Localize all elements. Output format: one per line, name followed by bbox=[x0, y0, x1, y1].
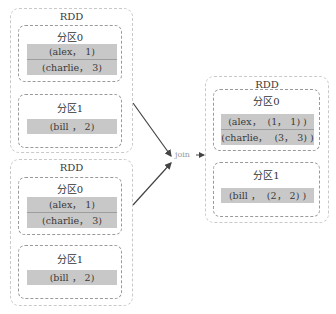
input-rdd-2: RDD 分区0 (alex， 1) (charlie， 3) 分区1 (bill… bbox=[10, 159, 133, 306]
partition-rows: (alex， (1， 1) ) (charlie， (3， 3) ) bbox=[221, 114, 314, 145]
record-row: (alex， 1) bbox=[27, 197, 117, 212]
join-operation-label: join bbox=[175, 150, 190, 159]
partition-label: 分区1 bbox=[19, 251, 121, 266]
record-row: (bill ， 2) bbox=[27, 119, 117, 134]
record-row: (bill ， 2) bbox=[27, 270, 117, 285]
record-row: (bill ， (2， 2) ) bbox=[221, 188, 314, 203]
record-row: (charlie， 3) bbox=[27, 59, 117, 75]
partition-label: 分区0 bbox=[19, 181, 121, 196]
partition-rows: (bill ， 2) bbox=[27, 119, 117, 134]
record-row: (alex， 1) bbox=[27, 44, 117, 59]
record-row: (charlie， (3， 3) ) bbox=[221, 129, 314, 145]
partition-1: 分区1 (bill ， 2) bbox=[18, 245, 122, 299]
partition-rows: (bill ， 2) bbox=[27, 270, 117, 285]
partition-label: 分区0 bbox=[214, 93, 319, 108]
partition-label: 分区0 bbox=[19, 29, 121, 44]
partition-1: 分区1 (bill ， 2) bbox=[18, 94, 122, 148]
rdd-title: RDD bbox=[11, 11, 132, 22]
arrow-rdd1-to-join bbox=[133, 103, 171, 156]
rdd-title: RDD bbox=[11, 162, 132, 173]
input-rdd-1: RDD 分区0 (alex， 1) (charlie， 3) 分区1 (bill… bbox=[10, 8, 133, 153]
partition-0: 分区0 (alex， 1) (charlie， 3) bbox=[18, 25, 122, 82]
partition-rows: (alex， 1) (charlie， 3) bbox=[27, 197, 117, 228]
record-row: (charlie， 3) bbox=[27, 212, 117, 228]
partition-0: 分区0 (alex， (1， 1) ) (charlie， (3， 3) ) bbox=[213, 89, 320, 151]
output-rdd: RDD 分区0 (alex， (1， 1) ) (charlie， (3， 3)… bbox=[205, 76, 329, 223]
partition-label: 分区1 bbox=[19, 100, 121, 115]
partition-1: 分区1 (bill ， (2， 2) ) bbox=[213, 162, 320, 217]
partition-0: 分区0 (alex， 1) (charlie， 3) bbox=[18, 177, 122, 235]
partition-rows: (bill ， (2， 2) ) bbox=[221, 188, 314, 203]
partition-rows: (alex， 1) (charlie， 3) bbox=[27, 44, 117, 75]
arrow-rdd2-to-join bbox=[133, 163, 171, 205]
partition-label: 分区1 bbox=[214, 167, 319, 182]
record-row: (alex， (1， 1) ) bbox=[221, 114, 314, 129]
